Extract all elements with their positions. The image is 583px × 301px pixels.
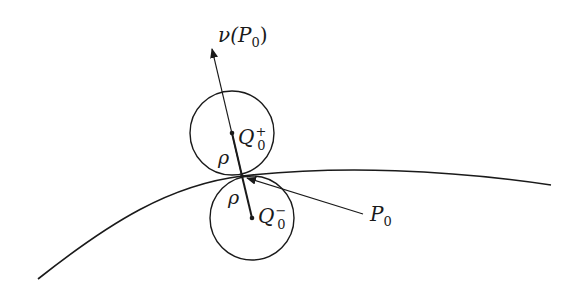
diagram-canvas: ν(P0) Q+0 Q−0 ρ ρ P0	[0, 0, 583, 301]
center-dot-upper	[230, 131, 235, 136]
center-dot-lower	[250, 216, 255, 221]
boundary-curve	[38, 170, 551, 279]
rho-lower-label: ρ	[227, 186, 240, 208]
upper-center-label: Q+0	[238, 124, 266, 153]
normal-label: ν(P0)	[218, 23, 268, 50]
diagram-svg: ν(P0) Q+0 Q−0 ρ ρ P0	[0, 0, 583, 301]
tangent-point-dot	[240, 174, 244, 178]
rho-upper-label: ρ	[217, 146, 230, 168]
lower-center-label: Q−0	[258, 203, 286, 232]
radius-lower	[242, 176, 252, 218]
p0-label: P0	[369, 202, 392, 229]
